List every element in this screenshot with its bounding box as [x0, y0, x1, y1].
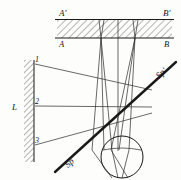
hatched-plate [55, 20, 174, 39]
lens-surface-arc [103, 148, 141, 150]
ray-line-1 [35, 64, 152, 90]
label-plane-lower: Sp [63, 156, 77, 170]
label-plane-upper: Sp' [154, 65, 170, 80]
label-plate-bottom-right: B [164, 39, 169, 49]
hatched-wall [24, 60, 34, 162]
label-wall: L [11, 102, 17, 112]
ray-line-2 [35, 106, 152, 107]
lens-circle [101, 136, 143, 178]
bundle-right-ray-b [119, 38, 135, 150]
diagram-canvas: A' B' A B L 1 2 3 Sp Sp' [0, 0, 181, 180]
bundle-right-ray-a [129, 38, 135, 150]
plate-hatch-fill [57, 20, 172, 39]
bundle-left-exit-b [112, 150, 118, 178]
ray-diagram-svg: A' B' A B L 1 2 3 Sp Sp' [0, 0, 181, 180]
wall-hatch-fill [24, 60, 34, 162]
label-plate-top-right: B' [163, 8, 171, 18]
ray-bundle-left [92, 20, 118, 178]
label-ray-2: 2 [35, 97, 39, 106]
label-ray-3: 3 [34, 136, 39, 145]
label-plate-top-left: A' [58, 8, 67, 18]
label-plate-bottom-left: A [58, 39, 65, 49]
label-ray-1: 1 [35, 55, 39, 64]
bundle-right-ray-c [111, 38, 135, 150]
